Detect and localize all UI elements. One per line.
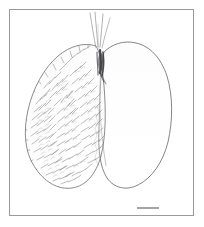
setae-group bbox=[90, 12, 110, 50]
figure-plate bbox=[0, 0, 204, 227]
illustration-canvas bbox=[0, 0, 204, 227]
